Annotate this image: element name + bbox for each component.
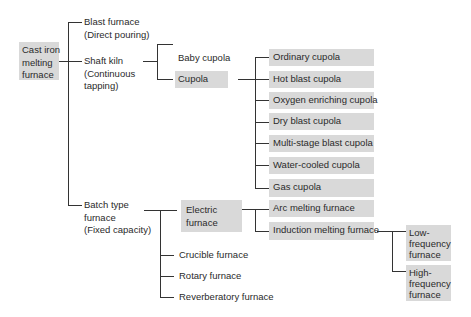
label: Low-	[409, 227, 451, 238]
connector	[255, 143, 269, 144]
connector	[255, 122, 269, 123]
node-crucible-furnace: Crucible furnace	[179, 249, 248, 262]
connector	[255, 165, 269, 166]
connector	[255, 231, 269, 232]
node-cupola: Cupola	[175, 71, 228, 88]
connector	[157, 44, 173, 45]
label: Induction melting furnace	[273, 224, 379, 235]
label: Blast furnace	[84, 16, 149, 29]
label: Water-cooled cupola	[273, 159, 360, 170]
label: furnace	[186, 217, 242, 230]
label: Crucible furnace	[179, 249, 248, 260]
connector	[160, 255, 174, 256]
label: Baby cupola	[178, 52, 230, 63]
label: Oxygen enriching cupola	[273, 94, 378, 105]
node-blast-furnace: Blast furnace (Direct pouring)	[84, 16, 149, 41]
node-low-frequency-furnace: Low- frequency furnace	[406, 225, 451, 261]
connector	[392, 231, 393, 271]
root-label-line2: melting	[22, 57, 59, 70]
label: Arc melting furnace	[273, 202, 355, 213]
node-electric-furnace: Electric furnace	[181, 200, 242, 232]
root-label-line1: Cast iron	[22, 44, 59, 57]
node-reverberatory-furnace: Reverberatory furnace	[179, 291, 274, 304]
label: Reverberatory furnace	[179, 291, 274, 302]
node-rotary-furnace: Rotary furnace	[179, 270, 241, 283]
node-hot-blast-cupola: Hot blast cupola	[269, 71, 374, 88]
connector	[255, 188, 269, 189]
node-high-frequency-furnace: High- frequency furnace	[406, 265, 451, 301]
connector	[160, 276, 174, 277]
label: Electric	[186, 204, 242, 217]
node-induction-melting-furnace: Induction melting furnace	[269, 222, 374, 240]
label: tapping)	[84, 80, 135, 93]
connector	[143, 61, 157, 62]
root-node-cast-iron-melting-furnace: Cast iron melting furnace	[19, 42, 59, 80]
node-batch-type-furnace: Batch type furnace (Fixed capacity)	[84, 199, 151, 237]
label: Hot blast cupola	[273, 73, 341, 84]
connector	[160, 210, 161, 297]
node-arc-melting-furnace: Arc melting furnace	[269, 200, 374, 217]
node-dry-blast-cupola: Dry blast cupola	[269, 113, 374, 130]
label: furnace	[409, 289, 451, 300]
label: Batch type	[84, 199, 151, 212]
label: Multi-stage blast cupola	[273, 137, 373, 148]
node-multi-stage-blast-cupola: Multi-stage blast cupola	[269, 135, 374, 152]
node-shaft-kiln: Shaft kiln (Continuous tapping)	[84, 55, 135, 93]
label: frequency	[409, 278, 451, 289]
connector	[255, 79, 269, 80]
connector	[392, 271, 406, 272]
connector	[59, 61, 68, 62]
node-oxygen-enriching-cupola: Oxygen enriching cupola	[269, 92, 374, 109]
label: High-	[409, 267, 451, 278]
connector	[160, 297, 174, 298]
connector	[68, 61, 82, 62]
label: Shaft kiln	[84, 55, 135, 68]
connector	[255, 100, 269, 101]
connector	[255, 57, 269, 58]
label: Ordinary cupola	[273, 51, 340, 62]
label: (Direct pouring)	[84, 29, 149, 42]
label: (Fixed capacity)	[84, 224, 151, 237]
label: furnace	[84, 212, 151, 225]
trunk-connector	[68, 22, 69, 205]
node-ordinary-cupola: Ordinary cupola	[269, 49, 374, 66]
label: Gas cupola	[273, 181, 321, 192]
label: (Continuous	[84, 68, 135, 81]
label: Cupola	[178, 73, 208, 84]
connector	[157, 44, 158, 79]
label: frequency	[409, 238, 451, 249]
label: Dry blast cupola	[273, 115, 341, 126]
node-baby-cupola: Baby cupola	[178, 52, 230, 65]
root-label-line3: furnace	[22, 69, 59, 82]
connector	[68, 205, 82, 206]
connector	[68, 22, 82, 23]
connector	[255, 209, 256, 231]
label: Rotary furnace	[179, 270, 241, 281]
node-gas-cupola: Gas cupola	[269, 179, 374, 197]
node-water-cooled-cupola: Water-cooled cupola	[269, 157, 374, 174]
connector	[157, 79, 173, 80]
label: furnace	[409, 249, 451, 260]
connector	[238, 79, 255, 80]
